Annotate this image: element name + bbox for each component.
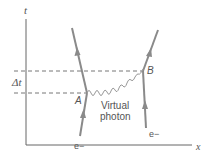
vertex-b-label: B <box>147 65 154 76</box>
vertex-a-label: A <box>74 95 82 106</box>
arrow-icon <box>142 100 148 109</box>
feynman-diagram: t x Δt A B Virtual photon e− e− <box>0 0 202 167</box>
virtual-photon-label-line2: photon <box>100 111 131 122</box>
virtual-photon-line <box>87 69 143 96</box>
right-electron-label: e− <box>149 129 159 139</box>
x-axis-label: x <box>195 141 201 152</box>
left-electron-out <box>72 28 87 93</box>
left-electron-label: e− <box>74 141 84 151</box>
virtual-photon-label-line1: Virtual <box>101 100 129 111</box>
arrow-icon <box>146 48 152 57</box>
t-axis-label: t <box>24 4 28 16</box>
right-electron-in <box>143 71 146 128</box>
delta-t-label: Δt <box>11 76 22 88</box>
arrow-icon <box>75 47 81 56</box>
